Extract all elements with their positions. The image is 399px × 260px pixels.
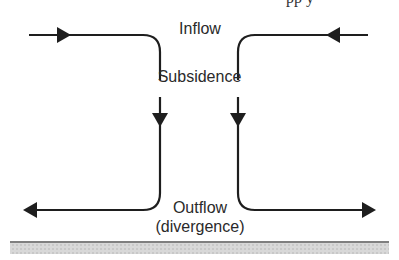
arrow-right-icon [57,27,71,43]
subsidence-label: Subsidence [150,68,249,86]
right-flow-path [230,27,376,218]
left-flow-path [23,27,168,218]
outflow-label: Outflow [160,199,240,217]
arrow-down-icon [152,113,168,127]
inflow-label: Inflow [172,20,228,38]
divergence-label: (divergence) [150,218,250,236]
arrow-right-icon [362,202,376,218]
ground-surface [10,242,389,254]
arrow-left-icon [326,27,340,43]
arrow-down-icon [230,113,246,127]
arrow-left-icon [23,202,37,218]
